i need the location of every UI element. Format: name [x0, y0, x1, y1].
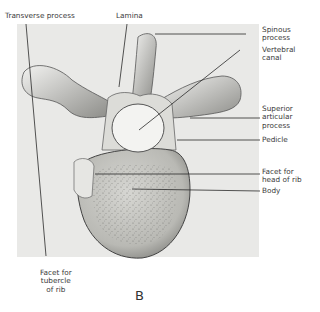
- label-facet-tubercle-of-rib: Facet for tubercle of rib: [40, 269, 72, 294]
- left-transverse-process-shape: [22, 66, 110, 118]
- label-spinous-process: Spinous process: [262, 26, 291, 43]
- label-superior-articular-process: Superior articular process: [262, 105, 293, 130]
- leader-transverse-process: [26, 24, 46, 256]
- label-facet-head-of-rib: Facet for head of rib: [262, 168, 302, 185]
- spinous-process-shape: [132, 34, 156, 100]
- label-pedicle: Pedicle: [262, 136, 288, 144]
- vertebral-canal-shape: [112, 104, 164, 152]
- panel-letter: B: [135, 288, 144, 303]
- label-vertebral-canal: Vertebral canal: [262, 46, 295, 63]
- label-lamina: Lamina: [116, 12, 143, 20]
- label-body: Body: [262, 187, 280, 195]
- cropped-caption-remnant: [4, 303, 84, 309]
- label-transverse-process: Transverse process: [5, 12, 75, 20]
- facet-head-of-rib-shape: [74, 159, 94, 198]
- leader-lamina: [119, 24, 127, 87]
